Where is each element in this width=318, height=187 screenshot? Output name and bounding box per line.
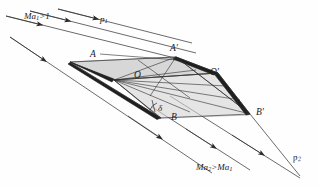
figure-root: Ma1>1 p1 Ma2>Ma1 p2 A A' O O' B B' δ bbox=[0, 0, 318, 187]
label-downstream-mach-sub2: 1 bbox=[229, 165, 232, 172]
label-pressure-upstream: p1 bbox=[100, 15, 108, 25]
label-point-B-prime: B' bbox=[256, 108, 264, 118]
diagram-canvas bbox=[0, 0, 318, 187]
label-angle-delta: δ bbox=[158, 104, 162, 113]
label-point-B: B bbox=[171, 113, 177, 123]
label-downstream-mach-value: Ma bbox=[217, 162, 229, 172]
label-upstream-mach-text: Ma bbox=[24, 11, 36, 21]
label-upstream-mach-value: 1 bbox=[45, 11, 50, 21]
flow-line-lower-main-arrow-2 bbox=[128, 116, 160, 138]
label-pressure-downstream-sub: 2 bbox=[297, 155, 301, 162]
flow-line-lower-2-arrow bbox=[186, 129, 214, 147]
p2-trailing-line bbox=[250, 114, 300, 176]
label-point-A-prime: A' bbox=[170, 44, 178, 54]
label-upstream-mach: Ma1>1 bbox=[24, 12, 50, 22]
flow-line-upper-3-arrow bbox=[58, 9, 96, 19]
label-downstream-mach-text: Ma bbox=[196, 162, 208, 172]
label-pressure-upstream-sub: 1 bbox=[105, 17, 108, 24]
label-point-O: O bbox=[134, 71, 141, 81]
flow-line-lower-3-arrow bbox=[232, 135, 262, 154]
label-point-O-prime: O' bbox=[210, 68, 219, 78]
label-pressure-downstream: p2 bbox=[292, 153, 301, 164]
flow-line-lower-main-arrow bbox=[10, 37, 44, 60]
label-point-A: A bbox=[90, 50, 96, 60]
label-downstream-mach: Ma2>Ma1 bbox=[196, 163, 233, 173]
